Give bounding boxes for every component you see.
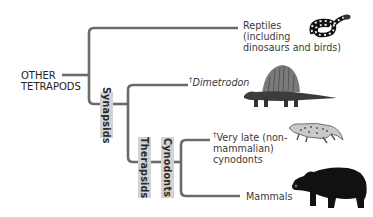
clade-label-synapsids: Synapsids: [100, 92, 113, 138]
phylogenetic-tree-diagram: OTHER TETRAPODS Synapsids Therapsids Cyn…: [0, 0, 373, 217]
tip-label-line: cynodonts: [213, 154, 287, 165]
clade-name: Cynodonts: [161, 138, 174, 197]
synapsid-node-branch: [128, 85, 188, 162]
clade-name: Therapsids: [138, 137, 151, 199]
tip-label-line: Mammals: [246, 191, 292, 202]
tip-label-line: mammalian): [213, 143, 287, 154]
snake-icon: [306, 12, 352, 40]
root-label: OTHER TETRAPODS: [21, 70, 81, 92]
cynodont-icon: [287, 120, 345, 146]
tip-label-very-late-cynodonts: †Very late (non- mammalian) cynodonts: [213, 130, 287, 165]
tip-label-line: Very late (non-: [217, 132, 288, 143]
dimetrodon-icon: [240, 62, 338, 108]
root-label-line2: TETRAPODS: [21, 81, 81, 92]
bear-icon: [290, 164, 370, 210]
clade-name: Synapsids: [100, 87, 113, 144]
clade-label-therapsids: Therapsids: [138, 137, 151, 198]
tip-label-mammals: Mammals: [246, 191, 292, 202]
root-label-line1: OTHER: [21, 70, 81, 81]
tip-label-line: dinosaurs and birds): [243, 42, 341, 53]
clade-label-cynodonts: Cynodonts: [161, 137, 174, 198]
